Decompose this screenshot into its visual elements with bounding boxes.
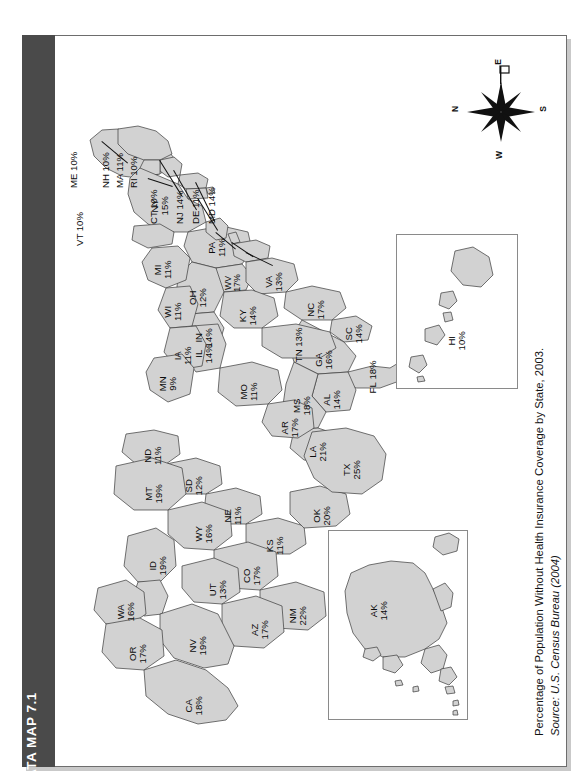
label-tx: TX25% xyxy=(342,460,362,479)
label-ks: KS11% xyxy=(265,537,285,556)
label-ar: AR17% xyxy=(280,418,300,437)
label-al: AL14% xyxy=(322,390,342,409)
label-fl: FL 18% xyxy=(368,360,378,393)
label-pa: PA11% xyxy=(207,239,227,258)
plate-title-band: U. S. DATA MAP 7.1 xyxy=(22,35,55,767)
label-hi: HI10% xyxy=(447,331,467,350)
label-ne: NE11% xyxy=(223,507,243,526)
label-mn: MN9% xyxy=(158,376,178,391)
label-mo: MO11% xyxy=(239,383,259,402)
map-content-area: Percentage of Population Without Health … xyxy=(56,36,566,766)
label-wy: WY16% xyxy=(194,524,214,543)
label-nj: NJ 14% xyxy=(174,190,185,224)
page-root: U. S. DATA MAP 7.1 Percentage of Populat… xyxy=(0,0,580,782)
label-nc: NC17% xyxy=(306,300,326,319)
label-sd: SD12% xyxy=(184,476,204,495)
label-wi: WI11% xyxy=(163,303,183,322)
alaska-inset: AK14% xyxy=(328,530,468,720)
plate-title-rotated: U. S. DATA MAP 7.1 xyxy=(22,437,55,767)
hawaii-shapes xyxy=(397,235,517,388)
label-nh: NH 10% xyxy=(100,152,111,188)
label-mi: MI11% xyxy=(153,261,173,280)
label-ri: RI 10% xyxy=(128,157,139,188)
us-map: ME 10% NH 10% MA 11% RI 10% CT 10% NJ 14… xyxy=(56,36,566,766)
label-ma: MA 11% xyxy=(114,153,125,188)
label-ms: MS18% xyxy=(292,396,312,415)
label-wv: WV17% xyxy=(224,274,242,292)
label-il: IL14% xyxy=(194,344,214,363)
label-me: ME 10% xyxy=(68,152,79,188)
label-nm: NM22% xyxy=(288,606,308,625)
label-ky: KY14% xyxy=(238,306,258,325)
hawaii-inset: HI10% xyxy=(396,234,518,389)
label-az: AZ17% xyxy=(250,620,270,639)
label-va: VA13% xyxy=(264,272,284,291)
label-md: MD 14% xyxy=(206,187,217,224)
label-ny: NY15% xyxy=(150,196,170,215)
label-mt: MT19% xyxy=(144,484,164,503)
label-de: DE 11% xyxy=(190,190,201,224)
page-title: U. S. DATA MAP 7.1 xyxy=(24,692,39,782)
label-oh: OH12% xyxy=(188,288,208,307)
label-ia: IA11% xyxy=(173,347,193,366)
label-ak: AK14% xyxy=(369,601,389,620)
label-co: CO17% xyxy=(242,566,262,585)
label-sc: SC14% xyxy=(344,324,364,343)
label-ut: UT13% xyxy=(208,580,228,599)
label-la: LA21% xyxy=(308,442,328,461)
label-id: ID19% xyxy=(148,556,168,575)
label-wa: WA16% xyxy=(116,602,136,621)
label-ga: GA16% xyxy=(314,350,334,369)
label-tn: TN 13% xyxy=(294,328,304,363)
label-nv: NV19% xyxy=(188,636,208,655)
label-ca: CA18% xyxy=(184,696,204,715)
alaska-shapes xyxy=(329,531,467,719)
label-ok: OK20% xyxy=(312,506,332,525)
label-or: OR17% xyxy=(128,644,148,663)
label-nd: ND11% xyxy=(143,447,163,466)
label-vt: VT 10% xyxy=(74,212,85,246)
